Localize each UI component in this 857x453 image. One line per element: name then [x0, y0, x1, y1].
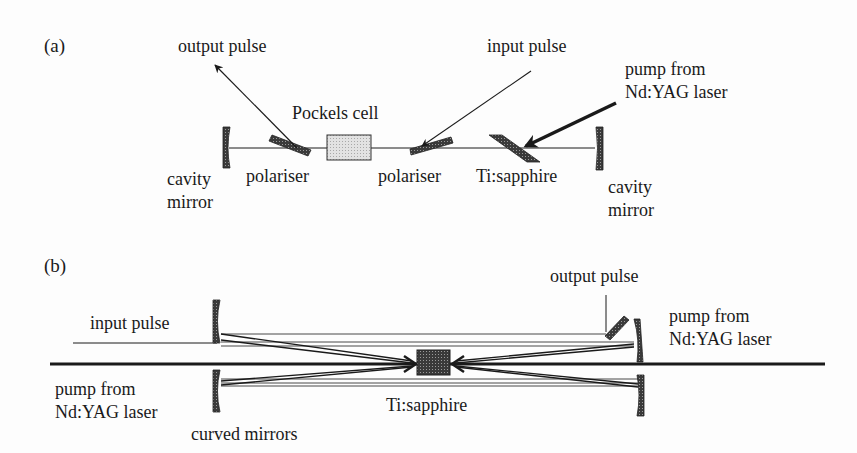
regenerative-amplifier-diagram: (a) output pulse input pulse Pockels cel…	[0, 0, 857, 453]
output-pulse-label: output pulse	[550, 266, 639, 286]
pockels-cell-label: Pockels cell	[292, 103, 378, 123]
pump-label-line2: Nd:YAG laser	[625, 82, 727, 102]
right-top-curved-mirror-icon	[634, 319, 643, 362]
pockels-cell-icon	[327, 135, 371, 160]
input-pulse-label: input pulse	[90, 313, 170, 333]
panel-a: (a) output pulse input pulse Pockels cel…	[44, 35, 727, 220]
left-bottom-curved-mirror-icon	[213, 370, 220, 412]
right-polariser-label: polariser	[378, 166, 441, 186]
pump-left-label-line1: pump from	[55, 379, 136, 399]
input-pulse-arrow	[422, 71, 531, 146]
left-top-curved-mirror-icon	[213, 300, 220, 343]
left-mirror-label-line2: mirror	[167, 192, 213, 212]
left-polariser-label: polariser	[246, 166, 309, 186]
pump-left-label-line2: Nd:YAG laser	[55, 402, 157, 422]
right-bottom-curved-mirror-icon	[637, 375, 644, 416]
left-polariser-icon	[269, 135, 311, 156]
panel-b-label: (b)	[44, 255, 66, 277]
ti-sapphire-label: Ti:sapphire	[386, 395, 467, 415]
pump-label-line1: pump from	[625, 59, 706, 79]
curved-mirrors-label: curved mirrors	[191, 424, 297, 444]
output-pulse-label: output pulse	[178, 36, 267, 56]
left-cavity-mirror-icon	[223, 127, 230, 168]
panel-a-label: (a)	[44, 35, 65, 57]
left-mirror-label-line1: cavity	[167, 169, 211, 189]
right-mirror-label-line2: mirror	[608, 200, 654, 220]
input-pulse-label: input pulse	[487, 36, 567, 56]
ti-sapphire-crystal-icon	[417, 350, 450, 375]
right-mirror-label-line1: cavity	[608, 177, 652, 197]
right-cavity-mirror-icon	[596, 127, 603, 170]
panel-b: (b)	[44, 255, 825, 444]
ti-sapphire-label: Ti:sapphire	[476, 166, 557, 186]
pump-right-label-line1: pump from	[669, 306, 750, 326]
pump-right-label-line2: Nd:YAG laser	[669, 329, 771, 349]
output-pickoff-mirror-icon	[605, 316, 629, 340]
